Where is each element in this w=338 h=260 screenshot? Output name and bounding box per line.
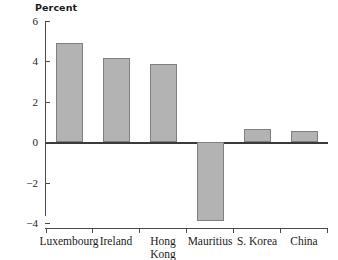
y-axis-spine bbox=[45, 21, 46, 216]
x-tick-0 bbox=[46, 228, 47, 233]
bar-ireland bbox=[103, 58, 130, 142]
plot-area: 6 4 2 0 −2 −4 Luxembo bbox=[45, 21, 320, 216]
x-label-hong-kong-line-1: Hong bbox=[150, 235, 176, 248]
x-label-china-line-1: China bbox=[290, 235, 317, 248]
x-tick-4 bbox=[233, 228, 234, 233]
y-tick-label-2: 2 bbox=[33, 96, 39, 108]
y-tick-label-4: 4 bbox=[33, 55, 39, 67]
bar-china bbox=[291, 131, 318, 142]
bar-s-korea bbox=[244, 129, 271, 142]
x-label-mauritius: Mauritius bbox=[188, 235, 233, 248]
x-tick-1 bbox=[92, 228, 93, 233]
y-tick-0: 0 bbox=[45, 142, 50, 143]
x-label-ireland: Ireland bbox=[100, 235, 133, 248]
y-tick-label-0: 0 bbox=[33, 136, 39, 148]
bar-hong-kong bbox=[150, 64, 177, 142]
bar-mauritius bbox=[197, 142, 224, 221]
y-tick-minus-4: −4 bbox=[45, 223, 50, 224]
x-label-mauritius-line-1: Mauritius bbox=[188, 235, 233, 248]
x-label-s-korea-line-1: S. Korea bbox=[237, 235, 277, 248]
y-tick-label-minus-2: −2 bbox=[26, 177, 38, 189]
x-tick-5 bbox=[280, 228, 281, 233]
x-label-luxembourg-line-1: Luxembourg bbox=[39, 235, 98, 248]
y-tick-6: 6 bbox=[45, 21, 50, 22]
y-axis-title: Percent bbox=[35, 2, 77, 13]
y-tick-label-minus-4: −4 bbox=[26, 217, 38, 229]
x-label-hong-kong: Hong Kong bbox=[150, 235, 176, 260]
y-tick-label-6: 6 bbox=[33, 15, 39, 27]
bar-luxembourg bbox=[56, 43, 83, 142]
x-tick-6 bbox=[327, 228, 328, 233]
x-label-luxembourg: Luxembourg bbox=[39, 235, 98, 248]
x-label-ireland-line-1: Ireland bbox=[100, 235, 133, 248]
y-tick-minus-2: −2 bbox=[45, 183, 50, 184]
zero-baseline bbox=[45, 142, 328, 143]
x-label-s-korea: S. Korea bbox=[237, 235, 277, 248]
x-label-china: China bbox=[290, 235, 317, 248]
x-label-hong-kong-line-2: Kong bbox=[150, 248, 176, 260]
y-tick-4: 4 bbox=[45, 61, 50, 62]
y-tick-2: 2 bbox=[45, 102, 50, 103]
x-tick-2 bbox=[139, 228, 140, 233]
x-tick-3 bbox=[186, 228, 187, 233]
